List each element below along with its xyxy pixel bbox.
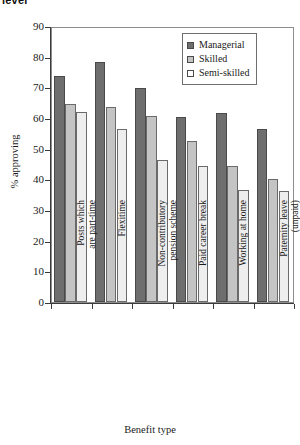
y-axis-tick-label: 70 bbox=[4, 82, 44, 93]
y-axis-tick bbox=[45, 272, 50, 273]
y-axis-tick-label: 90 bbox=[4, 21, 44, 32]
y-axis-line bbox=[50, 27, 51, 304]
y-axis-tick-labels: 0102030405060708090 bbox=[0, 0, 44, 445]
x-axis-category-label: Non-contributory pension scheme bbox=[157, 200, 178, 310]
x-axis-tick bbox=[132, 304, 133, 309]
y-axis-title: % approving bbox=[9, 117, 20, 207]
y-axis-tick bbox=[45, 180, 50, 181]
y-axis-tick bbox=[45, 88, 50, 89]
bar bbox=[135, 88, 146, 302]
bar bbox=[187, 141, 198, 302]
x-axis-category-label: Paternity leave (unpaid) bbox=[279, 200, 300, 310]
legend-swatch-icon bbox=[187, 70, 194, 77]
y-axis-tick bbox=[45, 119, 50, 120]
x-axis-category-label: Flexitime bbox=[117, 200, 128, 310]
y-axis-tick bbox=[45, 303, 50, 304]
legend-swatch-icon bbox=[187, 42, 194, 49]
bar bbox=[54, 76, 65, 302]
x-axis-category-label: Working at home bbox=[238, 200, 249, 310]
bar bbox=[106, 107, 117, 302]
bar bbox=[146, 116, 157, 302]
bar bbox=[65, 104, 76, 302]
bar bbox=[268, 179, 279, 302]
legend-label: Skilled bbox=[199, 54, 227, 64]
x-axis-category-label: Paid career break bbox=[198, 200, 209, 310]
y-axis-tick-label: 20 bbox=[4, 236, 44, 247]
legend-label: Managerial bbox=[199, 40, 245, 50]
x-axis-category-label: Posts which are part-time bbox=[76, 200, 97, 310]
y-axis-tick bbox=[45, 211, 50, 212]
legend-item: Semi-skilled bbox=[187, 66, 250, 80]
y-axis-tick-label: 10 bbox=[4, 266, 44, 277]
x-axis-tick bbox=[51, 304, 52, 309]
y-axis-tick-label: 0 bbox=[4, 297, 44, 308]
x-axis-title: Benefit type bbox=[0, 424, 300, 435]
y-axis-tick bbox=[45, 150, 50, 151]
bar bbox=[257, 129, 268, 302]
legend-item: Skilled bbox=[187, 52, 250, 66]
x-axis-tick bbox=[254, 304, 255, 309]
y-axis-tick bbox=[45, 27, 50, 28]
x-axis-tick bbox=[213, 304, 214, 309]
y-axis-tick bbox=[45, 58, 50, 59]
y-axis-tick bbox=[45, 242, 50, 243]
chart-legend: ManagerialSkilledSemi-skilled bbox=[182, 33, 257, 85]
bar bbox=[227, 166, 238, 302]
bar bbox=[216, 113, 227, 302]
legend-item: Managerial bbox=[187, 38, 250, 52]
legend-swatch-icon bbox=[187, 56, 194, 63]
y-axis-tick-label: 80 bbox=[4, 52, 44, 63]
y-axis-tick-label: 30 bbox=[4, 205, 44, 216]
legend-label: Semi-skilled bbox=[199, 68, 250, 78]
